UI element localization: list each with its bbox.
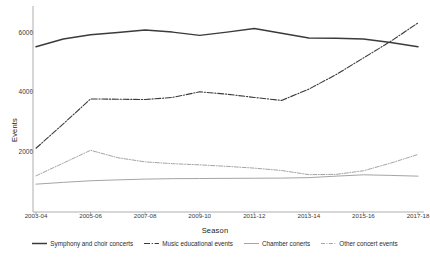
series-line-4 xyxy=(36,150,418,176)
plot-svg xyxy=(36,14,418,210)
legend-item-4[interactable]: Other concert events xyxy=(321,240,397,247)
legend-label: Other concert events xyxy=(339,240,397,247)
y-axis-tick-labels: 200040006000 xyxy=(0,14,33,210)
legend-swatch-icon xyxy=(32,240,47,247)
chart-legend: Symphony and choir concertsMusic educati… xyxy=(0,240,430,247)
legend-item-2[interactable]: Music educational events xyxy=(144,240,233,247)
legend-label: Music educational events xyxy=(162,240,233,247)
legend-label: Symphony and choir concerts xyxy=(50,240,133,247)
x-axis-title: Season xyxy=(0,226,430,235)
x-axis-tick-labels: 2003-042005-062007-082009-102011-122013-… xyxy=(36,212,418,224)
legend-item-1[interactable]: Symphony and choir concerts xyxy=(32,240,133,247)
legend-label: Chamber conerts xyxy=(262,240,310,247)
series-line-1 xyxy=(36,29,418,47)
legend-swatch-icon xyxy=(321,240,336,247)
series-line-2 xyxy=(36,23,418,148)
series-line-3 xyxy=(36,175,418,184)
plot-area xyxy=(36,14,418,210)
legend-swatch-icon xyxy=(244,240,259,247)
line-chart: Events Season 200040006000 2003-042005-0… xyxy=(0,0,430,259)
legend-item-3[interactable]: Chamber conerts xyxy=(244,240,310,247)
legend-swatch-icon xyxy=(144,240,159,247)
